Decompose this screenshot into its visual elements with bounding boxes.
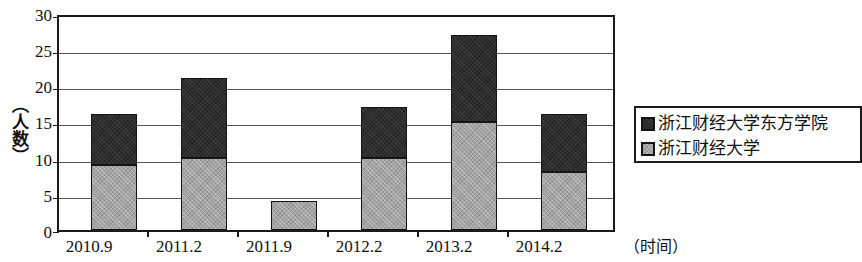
x-tick-label-2010-9: 2010.9 [46,238,132,256]
bar-segment-zhejiang-2014-2[interactable] [541,172,587,230]
bar-segment-dongfang-2010-9[interactable] [91,114,137,165]
bar-segment-dongfang-2013-2[interactable] [451,35,497,122]
y-tickmark-0 [53,232,59,233]
plot-area [57,15,615,232]
x-tickmark-1 [147,230,149,237]
gridline-10 [59,162,613,163]
legend-label-zhejiang: 浙江财经大学 [658,139,760,158]
x-axis-title: （时间） [624,238,688,256]
y-tick-label-10: 10 [22,152,52,169]
bar-segment-zhejiang-2013-2[interactable] [451,122,497,231]
gridline-25 [59,53,613,54]
gridline-20 [59,89,613,90]
y-tickmark-25 [53,53,59,54]
legend-label-dongfang: 浙江财经大学东方学院 [658,114,828,133]
bar-segment-dongfang-2011-2[interactable] [181,78,227,158]
y-tick-label-30: 30 [22,7,52,24]
y-tickmark-15 [53,125,59,126]
x-tickmark-2 [237,230,239,237]
x-tick-label-2013-2: 2013.2 [406,238,492,256]
x-tickmark-3 [327,230,329,237]
y-tick-label-20: 20 [22,79,52,96]
gridline-5 [59,198,613,199]
bar-segment-dongfang-2014-2[interactable] [541,114,587,172]
x-tick-label-2011-9: 2011.9 [226,238,312,256]
bar-segment-zhejiang-2011-2[interactable] [181,158,227,230]
legend-item-dongfang[interactable]: 浙江财经大学东方学院 [641,111,860,136]
x-tick-label-2011-2: 2011.2 [136,238,222,256]
y-tick-label-5: 5 [22,188,52,205]
bar-segment-dongfang-2012-2[interactable] [361,107,407,158]
gridline-15 [59,125,613,126]
y-tickmark-20 [53,89,59,90]
x-tickmark-5 [507,230,509,237]
legend-item-zhejiang[interactable]: 浙江财经大学 [641,136,860,161]
y-tick-label-25: 25 [22,43,52,60]
y-tick-label-15: 15 [22,115,52,132]
x-tickmark-4 [417,230,419,237]
legend-swatch-dark-icon [641,117,655,131]
x-tick-label-2014-2: 2014.2 [496,238,582,256]
legend-swatch-gray-icon [641,142,655,156]
y-tickmark-30 [53,17,59,18]
bar-segment-zhejiang-2011-9[interactable] [271,201,317,230]
y-tickmark-5 [53,198,59,199]
bar-segment-zhejiang-2012-2[interactable] [361,158,407,230]
legend: 浙江财经大学东方学院 浙江财经大学 [634,106,862,163]
y-tickmark-10 [53,162,59,163]
bar-segment-zhejiang-2010-9[interactable] [91,165,137,230]
x-tick-label-2012-2: 2012.2 [316,238,402,256]
